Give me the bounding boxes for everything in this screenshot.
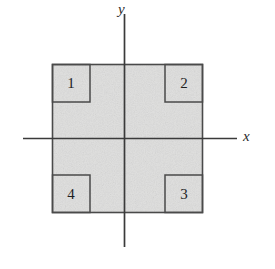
corner-cell-label-3: 3 — [165, 175, 203, 213]
corner-cell-label-4: 4 — [52, 175, 90, 213]
y-axis-label: y — [118, 2, 125, 17]
x-axis-label: x — [243, 129, 250, 144]
diagram-svg — [0, 0, 275, 269]
corner-cell-label-1: 1 — [52, 64, 90, 102]
figure-canvas: y x 1 2 3 4 — [0, 0, 275, 269]
corner-cell-label-2: 2 — [165, 64, 203, 102]
